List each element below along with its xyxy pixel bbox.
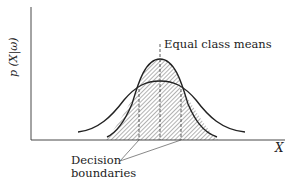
y-axis-label: p (X|ω) — [8, 27, 19, 77]
decision-boundaries-annotation: Decision boundaries — [71, 154, 136, 180]
class-conditional-density-figure: p (X|ω) X Equal class means Decision bou… — [0, 0, 298, 187]
equal-class-means-annotation: Equal class means — [164, 39, 272, 51]
density-plot — [0, 0, 298, 187]
x-axis-label: X — [275, 142, 284, 154]
decision-label-line2: boundaries — [71, 167, 136, 180]
